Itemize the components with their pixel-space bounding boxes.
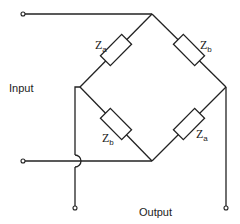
input-label: Input: [9, 82, 33, 94]
output-terminal-right: [224, 206, 228, 210]
left-output-wire-upper: [75, 87, 80, 155]
impedance-label-top-left: Za: [95, 38, 107, 54]
output-label: Output: [139, 206, 172, 218]
impedance-label-bottom-right: Za: [196, 127, 208, 143]
input-terminal-bottom: [21, 159, 25, 163]
input-terminal-top: [21, 12, 25, 16]
output-terminal-left: [73, 206, 77, 210]
impedance-label-bottom-left: Zb: [102, 131, 114, 147]
impedance-label-top-right: Zb: [200, 38, 212, 54]
lattice-network-diagram: Za Zb Zb Za Input Output: [0, 0, 240, 224]
